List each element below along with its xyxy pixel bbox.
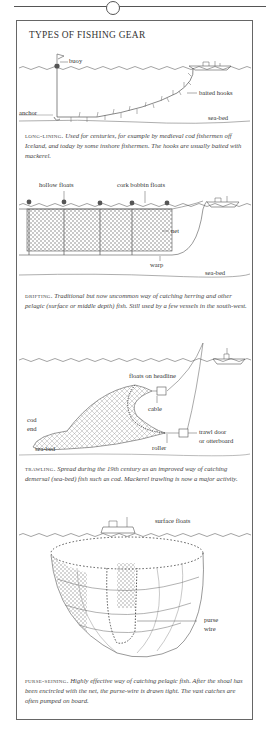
label-otterboard: or otterboard <box>199 438 233 445</box>
caption-heading: drifting. <box>25 292 53 299</box>
caption-heading: long-lining. <box>25 132 64 139</box>
caption-heading: purse-seining. <box>25 677 69 684</box>
label-warp: warp <box>150 262 163 269</box>
label-sea-bed: sea-bed <box>205 270 225 277</box>
label-cable: cable <box>148 406 162 413</box>
fishing-gear-panel: TYPES OF FISHING GEAR buoy <box>16 20 253 720</box>
label-net: net <box>171 228 179 235</box>
label-trawl-door: trawl door <box>199 429 226 436</box>
label-baited-hooks: baited hooks <box>199 90 233 97</box>
caption-drifting: drifting. Traditional but now uncommon w… <box>25 291 247 311</box>
label-floats-on-headline: floats on headline <box>129 373 176 380</box>
label-purse: purse <box>204 617 218 624</box>
page-header-rule <box>14 6 266 7</box>
purse-seining-diagram <box>17 513 252 673</box>
caption-purse-seining: purse-seining. Highly effective way of c… <box>25 676 247 707</box>
label-cod: cod <box>27 417 37 424</box>
section-trawling: floats on headline cable cod end trawl d… <box>17 351 252 501</box>
section-purse-seining: surface floats purse wire purse-seining.… <box>17 513 252 723</box>
label-anchor: anchor <box>19 110 37 117</box>
label-wire: wire <box>204 626 216 633</box>
caption-body: Spread during the 19th century as an imp… <box>25 465 238 482</box>
section-long-lining: buoy baited hooks anchor sea-bed long-li… <box>17 21 252 171</box>
label-hollow-floats: hollow floats <box>39 182 74 189</box>
decorative-circle-icon <box>106 1 120 15</box>
long-lining-diagram <box>17 21 252 121</box>
label-sea-bed: sea-bed <box>208 115 228 122</box>
label-buoy: buoy <box>69 58 82 65</box>
caption-trawling: trawling. Spread during the 19th century… <box>25 464 247 484</box>
label-roller: roller <box>152 445 166 452</box>
caption-heading: trawling. <box>25 465 56 472</box>
label-end: end <box>27 426 37 433</box>
caption-body: Traditional but now uncommon way of catc… <box>25 292 247 309</box>
section-drifting: hollow floats cork bobbin floats net war… <box>17 169 252 329</box>
label-cork-bobbin-floats: cork bobbin floats <box>117 182 165 189</box>
caption-long-lining: long-lining. Used for centuries, for exa… <box>25 131 247 162</box>
label-surface-floats: surface floats <box>155 518 190 525</box>
label-sea-bed: sea-bed <box>35 446 55 453</box>
